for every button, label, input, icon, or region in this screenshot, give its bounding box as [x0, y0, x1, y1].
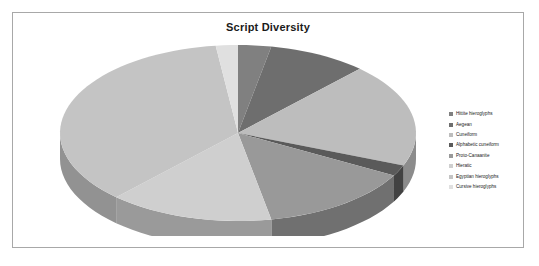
legend-swatch-icon [449, 175, 453, 179]
legend-item-label: Alphabetic cuneiform [456, 142, 499, 148]
legend-item[interactable]: Proto-Canaanite [449, 151, 529, 161]
legend-item[interactable]: Egyptian hieroglyphs [449, 171, 529, 181]
legend-swatch-icon [449, 123, 453, 127]
legend-item-label: Hittite hieroglyphs [456, 111, 493, 117]
legend-item-label: Cuneiform [456, 132, 477, 138]
legend-swatch-icon [449, 143, 453, 147]
legend-swatch-icon [449, 164, 453, 168]
legend-swatch-icon [449, 133, 453, 137]
pie-chart-svg [43, 41, 433, 236]
legend-item[interactable]: Cuneiform [449, 130, 529, 140]
legend: Hittite hieroglyphsAegeanCuneiformAlphab… [449, 109, 529, 192]
legend-item-label: Proto-Canaanite [456, 153, 489, 159]
legend-swatch-icon [449, 185, 453, 189]
legend-item[interactable]: Cursive hieroglyphs [449, 182, 529, 192]
legend-item[interactable]: Hittite hieroglyphs [449, 109, 529, 119]
legend-swatch-icon [449, 112, 453, 116]
page-title: Script Diversity [13, 21, 523, 33]
legend-item-label: Hieratic [456, 163, 472, 169]
legend-item[interactable]: Alphabetic cuneiform [449, 140, 529, 150]
legend-item-label: Aegean [456, 122, 472, 128]
pie-top-faces [60, 45, 416, 221]
chart-frame: Script Diversity contributions toward 20… [12, 12, 524, 248]
legend-swatch-icon [449, 154, 453, 158]
legend-item-label: Cursive hieroglyphs [456, 184, 496, 190]
legend-item[interactable]: Aegean [449, 119, 529, 129]
legend-item-label: Egyptian hieroglyphs [456, 174, 499, 180]
legend-item[interactable]: Hieratic [449, 161, 529, 171]
pie-chart [43, 41, 433, 236]
